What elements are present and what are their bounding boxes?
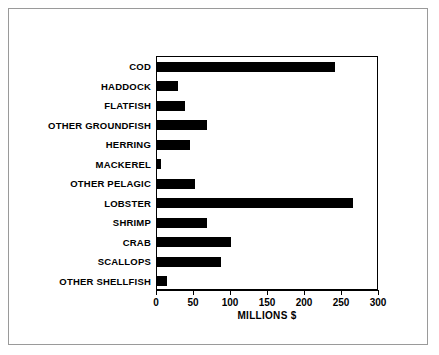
bar: [157, 237, 231, 247]
bar: [157, 276, 167, 286]
x-tick-mark: [156, 290, 157, 295]
bar-row: SCALLOPS: [157, 252, 377, 272]
x-tick-label: 0: [153, 297, 159, 308]
category-label: LOBSTER: [104, 194, 157, 214]
category-label: MACKEREL: [96, 155, 157, 175]
bar-row: SHRIMP: [157, 213, 377, 233]
x-tick-label: 250: [333, 297, 350, 308]
category-label: FLATFISH: [104, 96, 157, 116]
x-tick-mark: [193, 290, 194, 295]
bar: [157, 179, 195, 189]
x-axis: 050100150200250300: [156, 290, 378, 291]
x-tick-label: 100: [222, 297, 239, 308]
bar: [157, 257, 221, 267]
category-label: OTHER PELAGIC: [70, 174, 157, 194]
bar: [157, 198, 353, 208]
plot-area: CODHADDOCKFLATFISHOTHER GROUNDFISHHERRIN…: [156, 56, 378, 290]
x-tick-label: 150: [259, 297, 276, 308]
bar-row: OTHER PELAGIC: [157, 174, 377, 194]
category-label: OTHER SHELLFISH: [59, 272, 157, 292]
category-label: SCALLOPS: [98, 252, 157, 272]
category-label: SHRIMP: [113, 213, 157, 233]
x-tick-mark: [304, 290, 305, 295]
bar-row: OTHER SHELLFISH: [157, 272, 377, 292]
x-axis-title: MILLIONS $: [156, 310, 378, 321]
x-tick-label: 200: [296, 297, 313, 308]
bar: [157, 140, 190, 150]
category-label: OTHER GROUNDFISH: [48, 116, 157, 136]
x-tick-label: 50: [187, 297, 198, 308]
category-label: HADDOCK: [101, 77, 157, 97]
bar-row: MACKEREL: [157, 155, 377, 175]
bar: [157, 120, 207, 130]
bar-row: HERRING: [157, 135, 377, 155]
x-tick-mark: [341, 290, 342, 295]
bar-row: COD: [157, 57, 377, 77]
bar-row: OTHER GROUNDFISH: [157, 116, 377, 136]
category-label: CRAB: [123, 233, 157, 253]
x-tick-mark: [378, 290, 379, 295]
x-tick-mark: [267, 290, 268, 295]
category-label: COD: [129, 57, 157, 77]
bar-chart-figure: CODHADDOCKFLATFISHOTHER GROUNDFISHHERRIN…: [0, 0, 439, 355]
category-label: HERRING: [106, 135, 157, 155]
x-tick-mark: [230, 290, 231, 295]
bar-row: HADDOCK: [157, 77, 377, 97]
bar-row: FLATFISH: [157, 96, 377, 116]
bar: [157, 218, 207, 228]
x-tick-label: 300: [370, 297, 387, 308]
bar-row: CRAB: [157, 233, 377, 253]
bar: [157, 62, 335, 72]
bar: [157, 101, 185, 111]
bar: [157, 81, 178, 91]
bar: [157, 159, 161, 169]
bar-row: LOBSTER: [157, 194, 377, 214]
